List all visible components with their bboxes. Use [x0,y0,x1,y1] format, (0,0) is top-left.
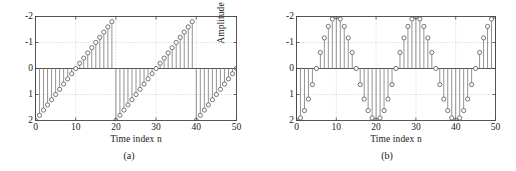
y-axis-label-b: Amplitude [214,0,228,76]
panel-caption-a: (a) [0,150,258,161]
y-tick-label: 0 [278,63,294,73]
x-tick-label: 10 [326,122,346,132]
y-tick-label: 1 [278,89,294,99]
y-tick-label: -2 [278,11,294,21]
y-tick-label: 0 [17,63,33,73]
panel-caption-b: (b) [258,150,516,161]
x-tick-label: 30 [406,122,426,132]
plot-area-b [296,16,496,121]
stem-plot-a [35,16,237,121]
stem-plot-b [296,16,496,121]
x-axis-label-b: Time index n [296,134,496,144]
x-tick-label: 10 [66,122,86,132]
x-tick-label: 50 [227,122,247,132]
x-tick-label: 50 [486,122,506,132]
x-tick-label: 20 [106,122,126,132]
y-tick-label: 2 [17,115,33,125]
x-tick-label: 40 [186,122,206,132]
y-tick-label: -1 [17,37,33,47]
x-axis-label-a: Time index n [35,134,237,144]
chart-panel-b: Amplitude Time index n (b) 0102030405021… [258,0,516,171]
y-tick-label: -1 [278,37,294,47]
y-tick-label: 2 [278,115,294,125]
x-tick-label: 40 [446,122,466,132]
y-tick-label: 1 [17,89,33,99]
x-tick-label: 20 [366,122,386,132]
x-tick-label: 30 [146,122,166,132]
plot-area-a [35,16,237,121]
y-tick-label: -2 [17,11,33,21]
figure-container: Amplitude Time index n (a) 0102030405021… [0,0,516,171]
